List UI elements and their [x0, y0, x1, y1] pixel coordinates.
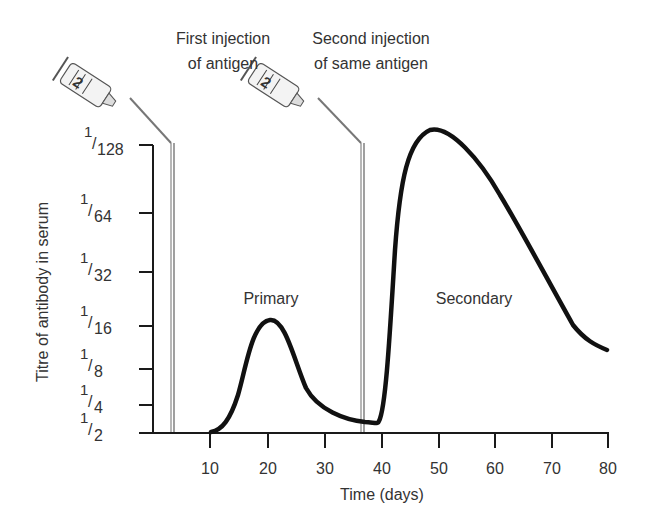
y-tick-labels: 1 / 128 1 / 64 1 / 32 1 / 16 1 / 8 1 / 4	[80, 123, 124, 444]
svg-text:128: 128	[97, 141, 124, 158]
y-tick-label-16: 1 / 16	[80, 302, 112, 337]
svg-text:64: 64	[94, 208, 112, 225]
y-tick-label-32: 1 / 32	[80, 249, 112, 284]
second-injection-line	[361, 143, 364, 433]
second-injection-label-line1: Second injection	[312, 30, 429, 47]
x-tick-label: 80	[599, 460, 617, 477]
second-injection-label-line2: of same antigen	[314, 55, 428, 72]
first-injection-label-line1: First injection	[176, 30, 270, 47]
antibody-response-curve	[211, 130, 607, 432]
svg-text:4: 4	[94, 399, 103, 416]
needle-second	[318, 98, 361, 143]
svg-text:/: /	[88, 393, 93, 410]
y-axis	[139, 145, 153, 433]
svg-text:2: 2	[94, 427, 103, 444]
syringe-icon-first: 2	[53, 57, 122, 115]
x-tick-label: 40	[373, 460, 391, 477]
y-tick-label-64: 1 / 64	[80, 190, 112, 225]
secondary-label: Secondary	[436, 290, 513, 307]
svg-text:/: /	[88, 421, 93, 438]
svg-text:8: 8	[94, 363, 103, 380]
x-axis-title: Time (days)	[340, 486, 424, 503]
svg-text:/: /	[88, 314, 93, 331]
x-tick-label: 50	[430, 460, 448, 477]
svg-text:/: /	[88, 357, 93, 374]
x-tick-label: 70	[543, 460, 561, 477]
x-tick-label: 10	[201, 460, 219, 477]
svg-text:/: /	[88, 202, 93, 219]
x-tick-labels: 10 20 30 40 50 60 70 80	[201, 460, 617, 477]
needle-first	[130, 98, 171, 143]
y-axis-title: Titre of antibody in serum	[34, 202, 51, 382]
x-tick-label: 20	[259, 460, 277, 477]
y-tick-label-128: 1 / 128	[84, 123, 124, 158]
svg-text:/: /	[88, 261, 93, 278]
primary-label: Primary	[243, 290, 298, 307]
x-tick-label: 30	[316, 460, 334, 477]
first-injection-line	[171, 143, 174, 433]
antibody-response-chart: 2 2 10 20 30 40 50	[0, 0, 650, 525]
first-injection-label-line2: of antigen	[188, 55, 258, 72]
svg-text:32: 32	[94, 267, 112, 284]
svg-text:16: 16	[94, 320, 112, 337]
x-axis	[139, 433, 609, 448]
y-tick-label-8: 1 / 8	[80, 345, 103, 380]
x-tick-label: 60	[486, 460, 504, 477]
